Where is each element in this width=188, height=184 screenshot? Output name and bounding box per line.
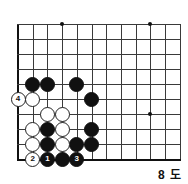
stone-black [69,137,84,152]
star-point [148,112,152,116]
stone-white [55,137,70,152]
stone-white-move-4: 4 [11,92,26,107]
grid-line-vertical [180,24,181,159]
star-point [148,22,152,26]
grid-line-vertical [136,24,137,159]
stone-white [55,122,70,137]
stone-white [25,92,40,107]
stone-black-move-3: 3 [69,152,84,167]
grid-line-horizontal [17,39,181,40]
stone-white [40,107,55,122]
stone-black [40,77,55,92]
stone-white-move-2: 2 [25,152,40,167]
grid-line-horizontal [17,54,181,55]
move-number-label: 2 [30,155,34,163]
move-number-label: 1 [45,155,49,163]
grid-line-horizontal [17,24,181,25]
stone-black-move-1: 1 [40,152,55,167]
grid-line-horizontal [17,69,181,70]
stone-black [84,122,99,137]
stone-white [55,107,70,122]
go-board-diagram: 1324 8 도 [0,0,188,184]
move-number-label: 3 [75,155,79,163]
stone-black [40,137,55,152]
grid-line-vertical [150,24,151,159]
diagram-caption: 8 도 [158,165,182,182]
stone-white [25,122,40,137]
grid-line-vertical [121,24,122,159]
star-point [60,22,64,26]
stone-black [25,77,40,92]
stone-black [40,122,55,137]
stone-black [69,77,84,92]
grid-line-vertical [106,24,107,159]
grid-line-vertical [165,24,166,159]
stone-black [84,92,99,107]
stone-white [25,137,40,152]
stone-black [55,152,70,167]
stone-black [84,137,99,152]
move-number-label: 4 [16,95,20,103]
